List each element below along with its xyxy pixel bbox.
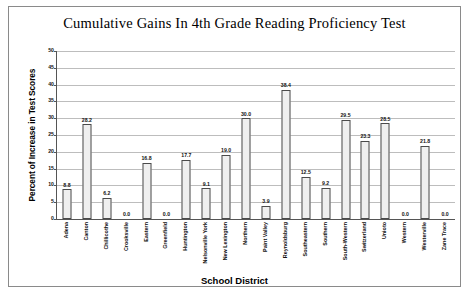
x-axis-category-label: Switzerland xyxy=(363,222,368,252)
x-axis-category-label: Southern xyxy=(323,222,328,246)
x-axis-category-label: Unioto xyxy=(383,222,388,239)
y-axis-title-text: Percent of Increase in Test Scores xyxy=(27,69,37,202)
bar-value-label: 0.0 xyxy=(163,212,170,217)
bar-value-label: 16.8 xyxy=(141,156,151,161)
bar-value-label: 9.2 xyxy=(322,181,329,186)
x-axis-category-label: Nelsonville York xyxy=(204,222,209,263)
bar[interactable] xyxy=(142,163,151,219)
bar[interactable] xyxy=(261,206,270,219)
y-tick-label: 5 xyxy=(51,200,54,205)
x-axis-category-label: Zane Trace xyxy=(442,222,447,250)
bar-value-label: 17.7 xyxy=(181,153,191,158)
x-axis-category-label: Greenfield xyxy=(164,222,169,249)
bar-group[interactable]: 19.0New Lexington xyxy=(216,51,236,219)
bar-group[interactable]: 0.0Crooksville xyxy=(117,51,137,219)
bar-value-label: 28.2 xyxy=(82,118,92,123)
x-axis-category-label: South-Western xyxy=(343,222,348,260)
x-axis-category-label: Western xyxy=(403,222,408,243)
bar-value-label: 19.0 xyxy=(221,148,231,153)
y-tick-label: 45 xyxy=(48,65,54,70)
y-tick-label: 30 xyxy=(48,116,54,121)
bar-group[interactable]: 28.5Unioto xyxy=(375,51,395,219)
bar[interactable] xyxy=(381,123,390,219)
bar-group[interactable]: 28.2Canton xyxy=(77,51,97,219)
bar-group[interactable]: 12.5Southeastern xyxy=(296,51,316,219)
x-axis-category-label: Northern xyxy=(243,222,248,245)
x-axis-category-label: Canton xyxy=(84,222,89,241)
bar-value-label: 6.2 xyxy=(103,191,110,196)
bar-value-label: 21.8 xyxy=(420,139,430,144)
x-axis-category-label: Eastern xyxy=(144,222,149,242)
bar-value-label: 9.1 xyxy=(203,182,210,187)
bar-group[interactable]: 23.3Switzerland xyxy=(356,51,376,219)
bar-group[interactable]: 3.9Paint Valley xyxy=(256,51,276,219)
plot-area: 05101520253035404550 8.8Adena28.2Canton6… xyxy=(56,51,455,220)
bar-value-label: 29.5 xyxy=(340,113,350,118)
y-tick-label: 10 xyxy=(48,183,54,188)
bar-value-label: 30.0 xyxy=(241,112,251,117)
bar[interactable] xyxy=(361,141,370,219)
bar-group[interactable]: 38.4Reynoldsburg xyxy=(276,51,296,219)
bar[interactable] xyxy=(202,188,211,219)
x-axis-category-label: New Lexington xyxy=(223,222,228,260)
chart-title: Cumulative Gains In 4th Grade Reading Pr… xyxy=(9,15,460,32)
bar[interactable] xyxy=(102,198,111,219)
bar[interactable] xyxy=(222,155,231,219)
y-tick-label: 20 xyxy=(48,149,54,154)
x-axis-category-label: Westerville xyxy=(422,222,427,250)
bar-group[interactable]: 0.0Western xyxy=(395,51,415,219)
bar[interactable] xyxy=(341,120,350,219)
bar[interactable] xyxy=(281,90,290,219)
y-tick-label: 15 xyxy=(48,166,54,171)
x-axis-category-label: Adena xyxy=(64,222,69,238)
bar-value-label: 0.0 xyxy=(441,212,448,217)
bar-value-label: 8.8 xyxy=(63,183,70,188)
bar-value-label: 23.3 xyxy=(360,134,370,139)
bar[interactable] xyxy=(301,177,310,219)
bar-value-label: 0.0 xyxy=(402,212,409,217)
y-axis-title: Percent of Increase in Test Scores xyxy=(26,51,38,219)
bar-group[interactable]: 16.8Eastern xyxy=(137,51,157,219)
bar-group[interactable]: 0.0Zane Trace xyxy=(435,51,455,219)
y-tick-label: 50 xyxy=(48,48,54,53)
bar-group[interactable]: 9.2Southern xyxy=(316,51,336,219)
x-axis-category-label: Reynoldsburg xyxy=(283,222,288,258)
bar-value-label: 0.0 xyxy=(123,212,130,217)
x-axis-category-label: Crooksville xyxy=(124,222,129,251)
x-axis-category-label: Chillicothe xyxy=(104,222,109,250)
bar[interactable] xyxy=(182,160,191,219)
bar[interactable] xyxy=(321,188,330,219)
bar-group[interactable]: 17.7Huntington xyxy=(176,51,196,219)
bar-group[interactable]: 29.5South-Western xyxy=(336,51,356,219)
bar-group[interactable]: 21.8Westerville xyxy=(415,51,435,219)
x-axis-category-label: Southeastern xyxy=(303,222,308,256)
y-tick-label: 40 xyxy=(48,82,54,87)
bar[interactable] xyxy=(421,146,430,219)
bar[interactable] xyxy=(82,124,91,219)
bar-group[interactable]: 30.0Northern xyxy=(236,51,256,219)
bar-value-label: 28.5 xyxy=(380,117,390,122)
bar[interactable] xyxy=(242,118,251,219)
chart-frame: Cumulative Gains In 4th Grade Reading Pr… xyxy=(8,6,461,287)
x-axis-title: School District xyxy=(9,275,460,286)
bar[interactable] xyxy=(62,189,71,219)
x-axis-category-label: Paint Valley xyxy=(263,222,268,252)
bar-group[interactable]: 8.8Adena xyxy=(57,51,77,219)
bar-value-label: 12.5 xyxy=(301,170,311,175)
y-tick-label: 25 xyxy=(48,132,54,137)
bar-group[interactable]: 9.1Nelsonville York xyxy=(196,51,216,219)
bar-value-label: 3.9 xyxy=(262,199,269,204)
y-tick-mark xyxy=(54,219,57,220)
y-tick-label: 35 xyxy=(48,99,54,104)
bar-value-label: 38.4 xyxy=(281,83,291,88)
y-tick-label: 0 xyxy=(51,216,54,221)
bar-group[interactable]: 6.2Chillicothe xyxy=(97,51,117,219)
x-axis-category-label: Huntington xyxy=(184,222,189,251)
bar-group[interactable]: 0.0Greenfield xyxy=(157,51,177,219)
